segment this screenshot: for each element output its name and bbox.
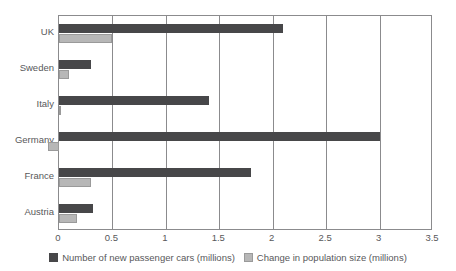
x-axis-tick-label: 1 <box>162 232 167 244</box>
legend-label: Change in population size (millions) <box>257 252 407 263</box>
y-axis-category-label: Italy <box>0 99 54 109</box>
bar-population-change <box>59 178 91 187</box>
bar-population-change <box>48 142 59 151</box>
bar-group <box>59 88 431 124</box>
x-axis-tick-label: 2.5 <box>319 232 332 244</box>
bar-new-passenger-cars <box>59 24 283 33</box>
dark-grey-swatch <box>49 253 58 262</box>
bar-group <box>59 16 431 52</box>
bar-group <box>59 159 431 195</box>
x-axis-tick-label: 3.5 <box>425 232 438 244</box>
bar-group <box>59 124 431 160</box>
bar-new-passenger-cars <box>59 96 209 105</box>
bar-group <box>59 195 431 231</box>
bar-new-passenger-cars <box>59 60 91 69</box>
grouped-bar-chart: UKSwedenItalyGermanyFranceAustria 00.511… <box>0 0 456 271</box>
bar-population-change <box>59 34 112 43</box>
y-axis-category-label: Sweden <box>0 63 54 73</box>
x-axis-tick-label: 0.5 <box>105 232 118 244</box>
x-axis-tick-label: 0 <box>55 232 60 244</box>
y-axis-category-label: France <box>0 171 54 181</box>
bar-population-change <box>59 106 61 115</box>
bar-new-passenger-cars <box>59 168 251 177</box>
bar-population-change <box>59 214 77 223</box>
x-axis-tick-label: 1.5 <box>212 232 225 244</box>
x-axis-tick-label: 3 <box>376 232 381 244</box>
legend-item: Change in population size (millions) <box>244 252 407 263</box>
chart-legend: Number of new passenger cars (millions)C… <box>0 249 456 265</box>
bar-new-passenger-cars <box>59 132 380 141</box>
bar-new-passenger-cars <box>59 204 93 213</box>
legend-label: Number of new passenger cars (millions) <box>62 252 235 263</box>
legend-item: Number of new passenger cars (millions) <box>49 252 235 263</box>
bar-population-change <box>59 70 69 79</box>
bar-group <box>59 52 431 88</box>
light-grey-swatch <box>244 253 253 262</box>
y-axis-category-label: Germany <box>0 135 54 145</box>
y-axis-category-label: UK <box>0 27 54 37</box>
plot-area <box>58 15 432 230</box>
x-axis-labels: 00.511.522.533.5 <box>0 232 456 246</box>
y-axis-labels: UKSwedenItalyGermanyFranceAustria <box>0 15 54 230</box>
y-axis-category-label: Austria <box>0 207 54 217</box>
x-axis-tick-label: 2 <box>269 232 274 244</box>
